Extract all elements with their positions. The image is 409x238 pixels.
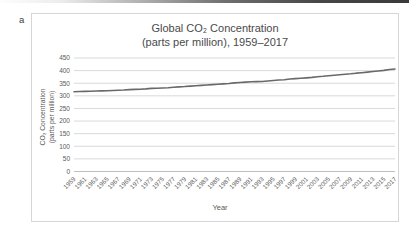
x-axis-title: Year [52,203,388,212]
y-axis-title: CO₂ Concentration (parts per million) [39,61,57,173]
y-axis-title-line1: CO₂ Concentration [39,61,48,173]
y-tick-label: 150 [59,130,70,137]
y-tick-label: 450 [59,54,70,61]
x-tick-label: 2017 [383,175,398,190]
y-tick-label: 100 [59,143,70,150]
y-axis-title-line2: (parts per million) [48,61,57,173]
y-tick-label: 50 [63,155,71,162]
co2-line [74,69,395,92]
y-tick-label: 0 [66,168,70,175]
panel-label: a [19,14,24,25]
plot-svg: 0501001502002503003504004501959196119631… [32,14,398,221]
y-tick-label: 250 [59,105,70,112]
y-tick-label: 400 [59,67,70,74]
screen: a Global CO₂ Concentration (parts per mi… [0,0,409,238]
chart-frame: Global CO₂ Concentration (parts per mill… [31,13,399,222]
y-tick-label: 200 [59,117,70,124]
y-tick-label: 300 [59,92,70,99]
y-tick-label: 350 [59,80,70,87]
top-divider [0,0,409,3]
